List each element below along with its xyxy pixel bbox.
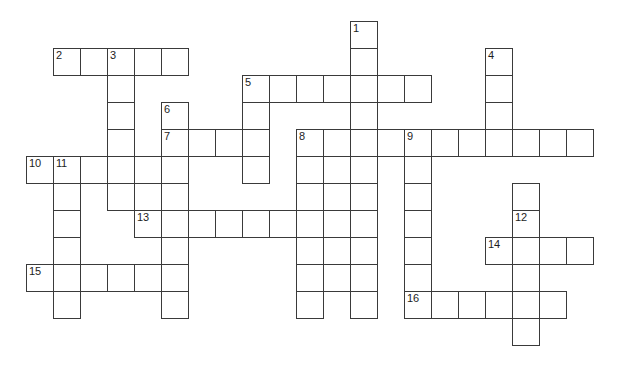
crossword-cell[interactable] [161, 210, 189, 238]
crossword-cell-numbered-7[interactable]: 7 [161, 129, 189, 157]
crossword-cell[interactable] [80, 48, 108, 76]
crossword-cell[interactable] [350, 183, 378, 211]
crossword-cell-numbered-3[interactable]: 3 [107, 48, 135, 76]
crossword-cell[interactable] [539, 291, 567, 319]
crossword-cell[interactable] [134, 48, 162, 76]
crossword-cell[interactable] [566, 129, 594, 157]
crossword-cell[interactable] [215, 129, 243, 157]
crossword-cell-numbered-5[interactable]: 5 [242, 75, 270, 103]
crossword-cell[interactable] [107, 264, 135, 292]
crossword-cell-numbered-14[interactable]: 14 [485, 237, 513, 265]
crossword-cell[interactable] [404, 183, 432, 211]
crossword-cell[interactable] [188, 129, 216, 157]
crossword-cell[interactable] [161, 237, 189, 265]
crossword-cell[interactable] [134, 264, 162, 292]
crossword-cell[interactable] [323, 156, 351, 184]
crossword-cell-numbered-1[interactable]: 1 [350, 21, 378, 49]
crossword-cell[interactable] [323, 129, 351, 157]
crossword-cell[interactable] [53, 210, 81, 238]
crossword-cell[interactable] [404, 264, 432, 292]
crossword-cell[interactable] [215, 210, 243, 238]
crossword-cell[interactable] [296, 75, 324, 103]
crossword-cell[interactable] [404, 75, 432, 103]
crossword-cell[interactable] [53, 264, 81, 292]
crossword-cell[interactable] [350, 291, 378, 319]
crossword-cell[interactable] [431, 291, 459, 319]
crossword-cell-numbered-4[interactable]: 4 [485, 48, 513, 76]
crossword-cell[interactable] [350, 129, 378, 157]
crossword-cell[interactable] [539, 237, 567, 265]
crossword-cell[interactable] [107, 156, 135, 184]
crossword-cell[interactable] [53, 291, 81, 319]
crossword-cell[interactable] [296, 210, 324, 238]
crossword-cell[interactable] [296, 183, 324, 211]
crossword-cell[interactable] [431, 129, 459, 157]
crossword-cell[interactable] [242, 129, 270, 157]
crossword-cell[interactable] [161, 48, 189, 76]
crossword-cell[interactable] [134, 156, 162, 184]
crossword-cell-numbered-2[interactable]: 2 [53, 48, 81, 76]
crossword-cell[interactable] [161, 291, 189, 319]
crossword-cell-numbered-12[interactable]: 12 [512, 210, 540, 238]
crossword-cell[interactable] [350, 156, 378, 184]
crossword-cell[interactable] [350, 102, 378, 130]
crossword-cell[interactable] [512, 264, 540, 292]
crossword-cell[interactable] [485, 291, 513, 319]
crossword-cell[interactable] [512, 129, 540, 157]
crossword-cell[interactable] [269, 75, 297, 103]
crossword-cell[interactable] [485, 129, 513, 157]
crossword-cell[interactable] [296, 291, 324, 319]
crossword-cell[interactable] [296, 237, 324, 265]
crossword-cell[interactable] [323, 183, 351, 211]
crossword-cell-numbered-8[interactable]: 8 [296, 129, 324, 157]
crossword-cell[interactable] [188, 210, 216, 238]
crossword-cell[interactable] [377, 129, 405, 157]
crossword-cell-numbered-6[interactable]: 6 [161, 102, 189, 130]
crossword-cell[interactable] [566, 237, 594, 265]
crossword-cell[interactable] [323, 210, 351, 238]
crossword-cell[interactable] [242, 156, 270, 184]
crossword-cell[interactable] [161, 183, 189, 211]
crossword-cell-numbered-9[interactable]: 9 [404, 129, 432, 157]
crossword-cell-numbered-11[interactable]: 11 [53, 156, 81, 184]
crossword-cell[interactable] [242, 210, 270, 238]
crossword-cell[interactable] [242, 102, 270, 130]
crossword-cell[interactable] [485, 75, 513, 103]
crossword-cell[interactable] [404, 237, 432, 265]
crossword-cell[interactable] [80, 156, 108, 184]
crossword-cell[interactable] [53, 237, 81, 265]
crossword-cell[interactable] [323, 75, 351, 103]
crossword-cell-numbered-15[interactable]: 15 [26, 264, 54, 292]
crossword-cell[interactable] [350, 264, 378, 292]
crossword-cell-numbered-10[interactable]: 10 [26, 156, 54, 184]
crossword-cell[interactable] [269, 210, 297, 238]
crossword-cell[interactable] [485, 102, 513, 130]
crossword-cell[interactable] [80, 264, 108, 292]
crossword-cell[interactable] [539, 129, 567, 157]
crossword-cell[interactable] [161, 264, 189, 292]
crossword-cell-numbered-13[interactable]: 13 [134, 210, 162, 238]
crossword-cell[interactable] [107, 102, 135, 130]
crossword-cell[interactable] [107, 75, 135, 103]
crossword-cell[interactable] [350, 48, 378, 76]
crossword-cell[interactable] [512, 183, 540, 211]
crossword-cell[interactable] [350, 75, 378, 103]
crossword-cell-numbered-16[interactable]: 16 [404, 291, 432, 319]
crossword-cell[interactable] [350, 210, 378, 238]
crossword-cell[interactable] [404, 210, 432, 238]
crossword-cell[interactable] [107, 129, 135, 157]
crossword-cell[interactable] [512, 237, 540, 265]
crossword-cell[interactable] [512, 318, 540, 346]
crossword-cell[interactable] [458, 291, 486, 319]
crossword-cell[interactable] [296, 264, 324, 292]
crossword-cell[interactable] [107, 183, 135, 211]
crossword-cell[interactable] [377, 75, 405, 103]
crossword-cell[interactable] [350, 237, 378, 265]
crossword-cell[interactable] [512, 291, 540, 319]
crossword-cell[interactable] [296, 156, 324, 184]
crossword-cell[interactable] [404, 156, 432, 184]
crossword-cell[interactable] [323, 264, 351, 292]
crossword-cell[interactable] [53, 183, 81, 211]
crossword-cell[interactable] [323, 237, 351, 265]
crossword-cell[interactable] [161, 156, 189, 184]
